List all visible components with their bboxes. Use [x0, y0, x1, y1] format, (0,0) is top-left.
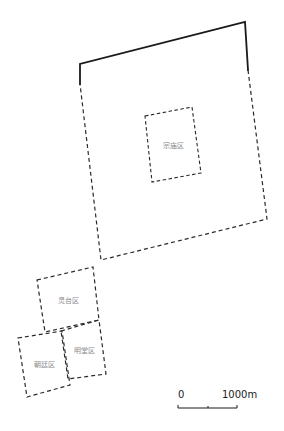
chaoting-label: 朝廷区 [34, 360, 55, 369]
zongmiao-label: 宗庙区 [163, 141, 184, 150]
outer-wall-dashed-segment [80, 70, 267, 260]
scale-start-label: 0 [178, 389, 184, 400]
outer-wall-solid-segment [80, 22, 248, 84]
zone-zongmiao: 宗庙区 [145, 107, 201, 182]
scale-end-label: 1000m [222, 389, 257, 400]
lingtai-label: 灵台区 [58, 296, 79, 305]
site-plan-map: 宗庙区 灵台区 明堂区 朝廷区 0 1000m [0, 0, 284, 431]
outer-city-boundary [80, 22, 267, 260]
scale-bar: 0 1000m [178, 389, 257, 408]
mingtang-label: 明堂区 [74, 346, 95, 355]
